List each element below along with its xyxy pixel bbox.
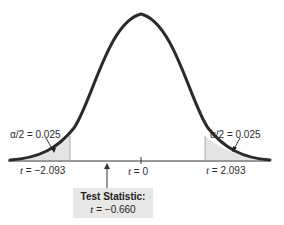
t-var: t bbox=[206, 164, 209, 176]
t-var: t bbox=[90, 203, 93, 215]
t-var: t bbox=[128, 165, 131, 177]
center-label: t = 0 bbox=[128, 166, 148, 177]
right-critical-value-label: t = 2.093 bbox=[206, 165, 246, 176]
equals: = bbox=[212, 165, 218, 176]
test-statistic-title: Test Statistic: bbox=[73, 191, 153, 202]
left-tail-area-label: α/2 = 0.025 bbox=[10, 129, 61, 140]
left-critical-value-label: t = −2.093 bbox=[20, 165, 65, 176]
t-var: t bbox=[20, 164, 23, 176]
equals: = bbox=[134, 166, 140, 177]
test-statistic-value: t = −0.660 bbox=[73, 203, 153, 215]
left-critical-value: −2.093 bbox=[34, 165, 65, 176]
equals: = bbox=[96, 204, 102, 215]
test-statistic-callout: Test Statistic: t = −0.660 bbox=[73, 188, 153, 218]
test-statistic-arrowhead bbox=[104, 163, 110, 169]
test-statistic-number: −0.660 bbox=[105, 204, 136, 215]
equals: = bbox=[26, 165, 32, 176]
right-tail-area-label: α/2 = 0.025 bbox=[210, 129, 261, 140]
center-value: 0 bbox=[142, 166, 148, 177]
right-critical-value: 2.093 bbox=[220, 165, 245, 176]
